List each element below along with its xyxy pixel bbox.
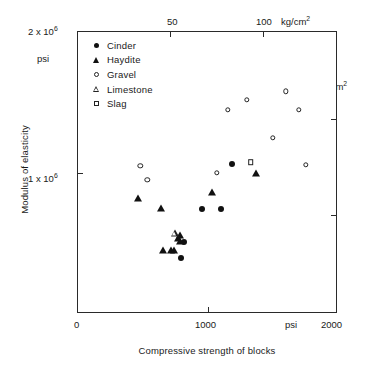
- data-point-haydite: [170, 246, 178, 253]
- data-point-limestone: [171, 229, 179, 236]
- data-point-gravel: [214, 170, 219, 175]
- x-axis-tick-label-0: 0: [74, 320, 79, 330]
- data-point-gravel: [296, 107, 301, 112]
- data-point-cinder: [178, 255, 184, 261]
- data-point-cinder: [229, 161, 235, 167]
- data-point-gravel: [303, 162, 308, 167]
- y-tick-1e6-exp: 6: [54, 172, 58, 179]
- data-point-slag: [248, 160, 254, 166]
- data-point-haydite: [157, 205, 165, 212]
- y-axis-tick-label-2e6: 2 x 106: [28, 27, 58, 37]
- data-point-haydite: [252, 170, 260, 177]
- data-point-haydite: [159, 246, 167, 253]
- data-points-layer: [78, 32, 336, 312]
- y-axis-tick-label-1e6: 1 x 106: [28, 174, 58, 184]
- x-axis-tick-label-1000: 1000: [195, 320, 216, 330]
- x-top-unit-text: kg/cm: [281, 16, 306, 27]
- data-point-gravel: [244, 97, 249, 102]
- data-point-haydite: [208, 189, 216, 196]
- data-point-gravel: [145, 177, 150, 182]
- data-point-cinder: [199, 206, 205, 212]
- y-axis-title: Modulus of elasticity: [19, 100, 30, 240]
- x-axis-top-tick-label-50: 50: [167, 17, 178, 27]
- y-tick-1e6-text: 1 x 10: [28, 173, 54, 184]
- x-axis-title: Compressive strength of blocks: [77, 345, 337, 356]
- y-tick-2e6-exp: 6: [54, 25, 58, 32]
- y-axis-unit-label-psi: psi: [37, 54, 49, 64]
- y-tick-2e6-text: 2 x 10: [28, 26, 54, 37]
- data-point-gravel: [283, 89, 288, 94]
- data-point-haydite: [134, 195, 142, 202]
- scatter-chart-figure: Modulus of elasticity Compressive streng…: [0, 0, 375, 369]
- data-point-cinder: [218, 206, 224, 212]
- data-point-gravel: [225, 107, 230, 112]
- x-axis-unit-label-psi: psi: [285, 320, 297, 330]
- data-point-gravel: [137, 163, 142, 168]
- x-axis-top-unit-label: kg/cm2: [281, 17, 310, 27]
- plot-area: Cinder Haydite Gravel Limestone Slag: [77, 31, 337, 313]
- y-right-unit-exp: 2: [343, 80, 347, 87]
- x-top-unit-exp: 2: [306, 15, 310, 22]
- x-axis-top-tick-label-100: 100: [256, 17, 272, 27]
- data-point-gravel: [270, 135, 275, 140]
- x-axis-tick-label-2000: 2000: [321, 320, 342, 330]
